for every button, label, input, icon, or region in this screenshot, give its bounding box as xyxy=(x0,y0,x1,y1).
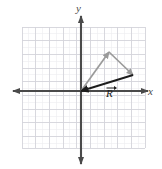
coordinate-plane-figure xyxy=(0,0,162,169)
vector-overbar-arrow-icon xyxy=(106,85,117,90)
x-axis-label: x xyxy=(148,86,153,97)
vector-a xyxy=(81,52,109,91)
vector-b xyxy=(109,52,133,75)
vector-diagram-canvas: x y R xyxy=(0,0,162,169)
resultant-vector-label: R xyxy=(106,88,113,99)
y-axis-label: y xyxy=(76,3,81,14)
axes xyxy=(13,16,148,164)
